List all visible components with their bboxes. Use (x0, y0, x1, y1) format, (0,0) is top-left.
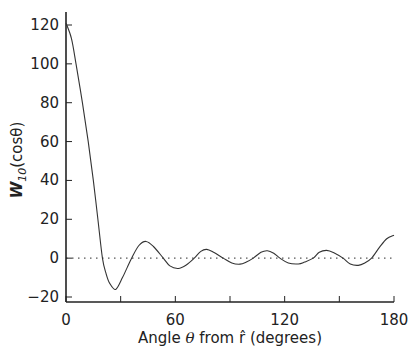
x-tick-label: 0 (61, 311, 71, 329)
y-tick-label: 80 (40, 94, 59, 112)
y-tick-label: −20 (27, 288, 59, 306)
y-tick-label: 20 (40, 210, 59, 228)
y-tick-label: 100 (30, 55, 59, 73)
x-tick-label: 60 (166, 311, 185, 329)
chart: 060120180 −20020406080100120 Angle θ fro… (0, 0, 417, 359)
y-axis-label: W10(cosθ) (8, 122, 29, 199)
x-tick-label: 180 (380, 311, 409, 329)
data-series (66, 23, 394, 289)
x-axis-ticks: 060120180 (61, 296, 408, 329)
series-line (66, 23, 394, 289)
y-tick-label: 40 (40, 171, 59, 189)
y-tick-label: 120 (30, 16, 59, 34)
x-tick-label: 120 (270, 311, 299, 329)
y-tick-label: 0 (49, 249, 59, 267)
y-tick-label: 60 (40, 133, 59, 151)
x-axis-label: Angle θ from r̂ (degrees) (138, 329, 322, 347)
